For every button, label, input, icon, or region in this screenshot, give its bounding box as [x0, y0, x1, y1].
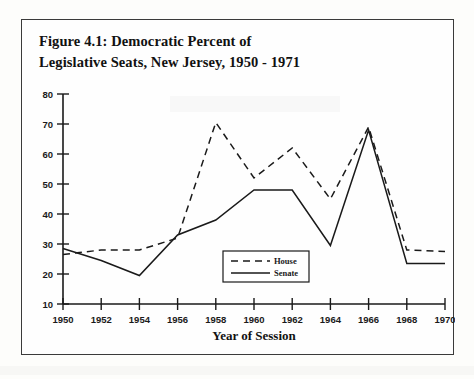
y-axis-tick-labels: 1020304050607080	[42, 89, 53, 310]
x-tick-label: 1966	[358, 314, 379, 325]
y-tick-label: 20	[42, 269, 53, 280]
y-tick-label: 30	[42, 239, 53, 250]
x-tick-label: 1952	[91, 314, 112, 325]
x-tick-label: 1958	[205, 314, 226, 325]
y-tick-label: 60	[42, 149, 53, 160]
y-tick-label: 70	[42, 119, 53, 130]
x-tick-label: 1960	[243, 314, 264, 325]
x-tick-label: 1962	[282, 314, 303, 325]
y-tick-label: 40	[42, 209, 53, 220]
x-tick-label: 1968	[396, 314, 417, 325]
legend-label-senate: Senate	[274, 268, 298, 278]
x-tick-label: 1964	[320, 314, 342, 325]
x-axis-tick-labels: 1950195219541956195819601962196419661968…	[52, 314, 455, 325]
x-tick-label: 1954	[129, 314, 151, 325]
chart-svg: 1020304050607080 19501952195419561958196…	[22, 20, 455, 356]
line-chart: 1020304050607080 19501952195419561958196…	[22, 20, 455, 356]
scan-artifact-edge	[0, 366, 474, 375]
legend-label-house: House	[274, 256, 297, 266]
x-tick-label: 1950	[52, 314, 73, 325]
y-tick-label: 50	[42, 179, 53, 190]
x-tick-label: 1970	[434, 314, 455, 325]
figure-frame: Figure 4.1: Democratic Percent of Legisl…	[21, 19, 454, 355]
x-axis-title: Year of Session	[212, 328, 296, 343]
y-tick-label: 10	[42, 299, 53, 310]
chart-legend: House Senate	[223, 251, 309, 282]
x-tick-label: 1956	[167, 314, 188, 325]
y-tick-label: 80	[42, 89, 53, 100]
series-line-house	[63, 123, 445, 255]
